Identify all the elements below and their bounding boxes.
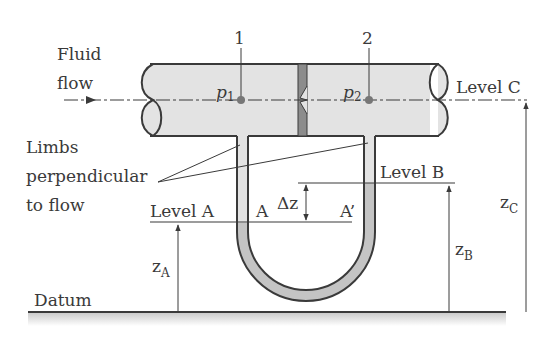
z-c-sub: C <box>509 202 518 216</box>
level-c-label: Level C <box>456 77 521 97</box>
section-2-label: 2 <box>362 28 373 48</box>
z-b-sub: B <box>464 249 473 263</box>
level-b-label: Level B <box>380 162 444 182</box>
flow-arrow-icon <box>86 96 96 104</box>
p2-sub: 2 <box>354 90 362 104</box>
limb-leader-right <box>158 143 368 182</box>
manometer-diagram: Fluid flow 1 2 p1 p2 Level C Limbs perpe… <box>0 0 556 340</box>
delta-z-label: Δz <box>277 193 298 213</box>
z-a-sub: A <box>160 266 170 280</box>
z-c-main: z <box>500 192 509 212</box>
fluid-flow-label-line1: Fluid <box>57 44 102 64</box>
z-a-main: z <box>152 256 161 276</box>
fluid-flow-label-line2: flow <box>57 73 94 93</box>
z-b-main: z <box>455 239 464 259</box>
section-1-label: 1 <box>234 28 245 48</box>
pressure-tap-2 <box>365 96 373 104</box>
ground-shade <box>28 312 506 326</box>
pressure-tap-1 <box>237 96 245 104</box>
level-a-label: Level A <box>150 201 215 221</box>
limbs-label-line2: perpendicular <box>26 166 148 186</box>
point-a-label: A <box>255 201 269 221</box>
limbs-label-line3: to flow <box>26 195 85 215</box>
limb-leader-left <box>158 145 240 182</box>
p1-main: p <box>216 82 227 102</box>
datum-label: Datum <box>34 290 92 310</box>
z-b-label: zB <box>455 239 473 263</box>
limbs-label-line1: Limbs <box>26 137 78 157</box>
point-a-prime-label: A’ <box>339 201 355 221</box>
z-a-label: zA <box>152 256 170 280</box>
p1-sub: 1 <box>227 90 235 104</box>
p2-main: p <box>343 82 354 102</box>
z-c-label: zC <box>500 192 518 216</box>
